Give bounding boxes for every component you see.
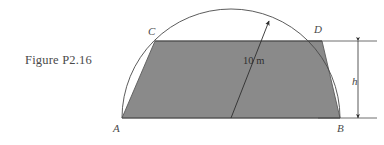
radius-label: 10 m — [243, 55, 264, 66]
label-point-d: D — [313, 23, 322, 35]
label-point-a: A — [112, 122, 120, 134]
label-point-c: C — [148, 25, 156, 37]
height-label: h — [352, 75, 358, 87]
figure-container: Figure P2.16 10 m h A B C — [0, 0, 384, 145]
figure-diagram: 10 m h A B C D — [0, 0, 384, 145]
trapezoid-shape — [122, 41, 340, 118]
label-point-b: B — [337, 122, 344, 134]
